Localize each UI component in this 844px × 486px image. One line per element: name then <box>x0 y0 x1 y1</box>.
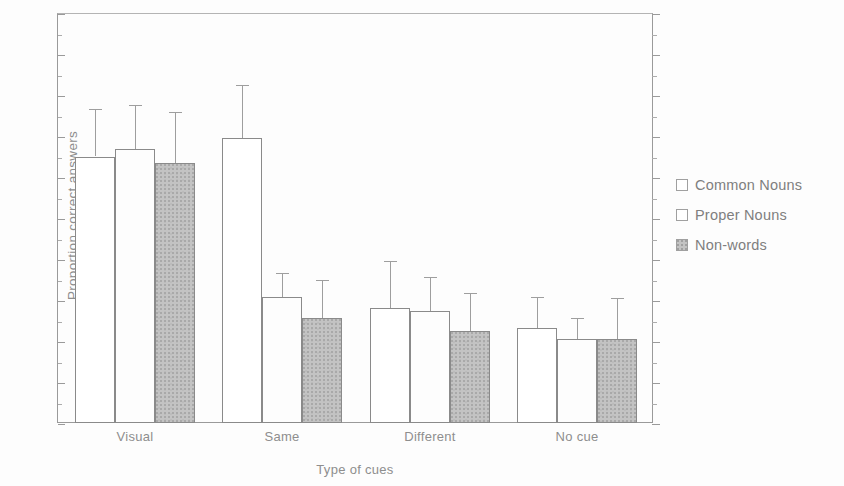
bar <box>155 163 195 423</box>
y-axis-minor-tick <box>58 281 62 282</box>
x-axis-tick-label: Different <box>350 429 510 444</box>
error-bar-line <box>617 298 618 339</box>
error-bar-line <box>430 277 431 311</box>
y-axis-tick <box>58 383 65 384</box>
legend-item-label: Non-words <box>695 237 767 253</box>
bar <box>557 339 597 423</box>
error-bar-cap <box>384 261 397 262</box>
y-axis-minor-tick <box>652 199 657 200</box>
bar <box>302 318 342 423</box>
legend-item: Non-words <box>676 230 836 260</box>
y-axis-minor-tick <box>652 363 657 364</box>
y-axis-tick <box>652 260 660 261</box>
y-axis-tick <box>652 178 660 179</box>
bar <box>115 149 155 423</box>
open-square-icon <box>676 209 688 221</box>
y-axis-tick <box>652 219 660 220</box>
y-axis-tick <box>58 178 65 179</box>
y-axis-tick <box>652 342 660 343</box>
bar <box>370 308 410 423</box>
error-bar-cap <box>531 297 544 298</box>
bar <box>517 328 557 423</box>
y-axis-minor-tick <box>58 322 62 323</box>
error-bar-cap <box>611 298 624 299</box>
error-bar-line <box>282 273 283 297</box>
error-bar-line <box>390 261 391 308</box>
y-axis-minor-tick <box>58 117 62 118</box>
error-bar-line <box>470 293 471 331</box>
y-axis-minor-tick <box>652 76 657 77</box>
y-axis-tick <box>58 96 65 97</box>
error-bar-cap <box>236 85 249 86</box>
y-axis-minor-tick <box>652 158 657 159</box>
error-bar-cap <box>169 112 182 113</box>
y-axis-minor-tick <box>58 158 62 159</box>
bar <box>597 339 637 423</box>
bar <box>75 157 115 424</box>
bar <box>222 138 262 423</box>
error-bar-line <box>577 318 578 339</box>
y-axis-minor-tick <box>652 240 657 241</box>
y-axis-tick <box>58 424 65 425</box>
error-bar-cap <box>276 273 289 274</box>
y-axis-minor-tick <box>652 281 657 282</box>
error-bar-line <box>175 112 176 162</box>
filled-square-icon <box>676 239 688 251</box>
error-bar-cap <box>464 293 477 294</box>
error-bar-cap <box>424 277 437 278</box>
bar-chart-figure: Proportion correct answers 0.1.2.3.4.5.6… <box>0 0 844 486</box>
y-axis-minor-tick <box>58 199 62 200</box>
legend-item-label: Common Nouns <box>695 177 802 193</box>
y-axis-tick <box>652 424 660 425</box>
error-bar-line <box>135 105 136 149</box>
y-axis-minor-tick <box>58 240 62 241</box>
error-bar-cap <box>129 105 142 106</box>
legend-item: Common Nouns <box>676 170 836 200</box>
error-bar-line <box>322 280 323 317</box>
y-axis-tick <box>58 301 65 302</box>
y-axis-tick <box>58 219 65 220</box>
error-bar-line <box>95 109 96 156</box>
legend-item: Proper Nouns <box>676 200 836 230</box>
open-square-icon <box>676 179 688 191</box>
error-bar-cap <box>316 280 329 281</box>
y-axis-minor-tick <box>652 35 657 36</box>
y-axis-minor-tick <box>652 404 657 405</box>
y-axis-tick <box>652 137 660 138</box>
y-axis-tick <box>58 137 65 138</box>
y-axis-tick <box>652 96 660 97</box>
y-axis-tick <box>58 14 65 15</box>
y-axis-minor-tick <box>58 76 62 77</box>
x-axis-tick-label: Same <box>202 429 362 444</box>
bar <box>450 331 490 423</box>
y-axis-tick <box>58 342 65 343</box>
error-bar-line <box>537 297 538 328</box>
y-axis-minor-tick <box>652 322 657 323</box>
x-axis-tick-label: Visual <box>55 429 215 444</box>
y-axis-tick <box>652 383 660 384</box>
y-axis-tick <box>652 55 660 56</box>
y-axis-minor-tick <box>58 404 62 405</box>
y-axis-minor-tick <box>652 117 657 118</box>
y-axis-tick <box>652 14 660 15</box>
y-axis-minor-tick <box>58 35 62 36</box>
y-axis-tick <box>58 55 65 56</box>
error-bar-line <box>242 85 243 138</box>
bar <box>262 297 302 423</box>
y-axis-minor-tick <box>58 363 62 364</box>
error-bar-cap <box>571 318 584 319</box>
bar <box>410 311 450 423</box>
x-axis-title: Type of cues <box>57 462 653 477</box>
legend-item-label: Proper Nouns <box>695 207 787 223</box>
error-bar-cap <box>89 109 102 110</box>
y-axis-tick <box>652 301 660 302</box>
y-axis-tick <box>58 260 65 261</box>
x-axis-tick-label: No cue <box>497 429 657 444</box>
legend: Common NounsProper NounsNon-words <box>676 170 836 260</box>
